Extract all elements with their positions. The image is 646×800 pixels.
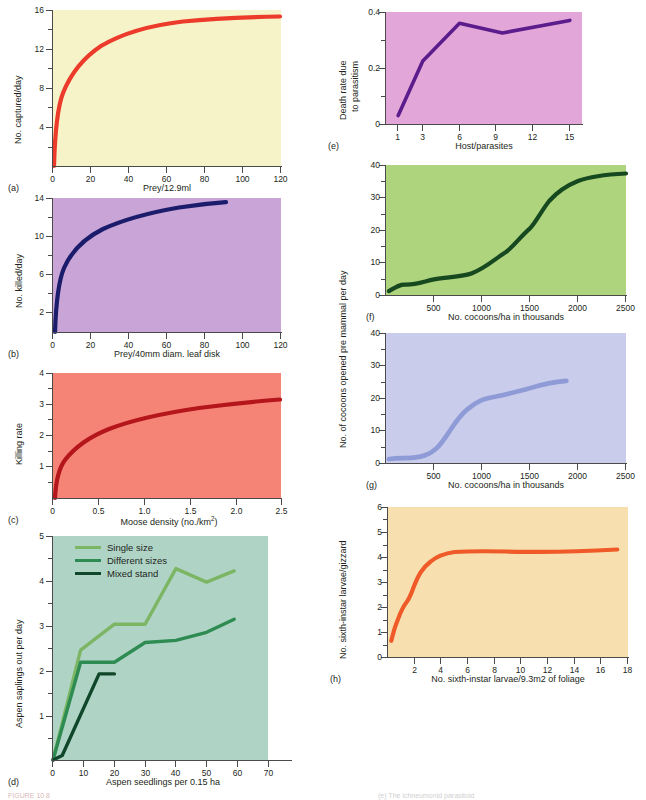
- panel-d-x-tick: [175, 761, 176, 767]
- panel-g-y-tick: [379, 333, 386, 334]
- panel-e-y-tick: [379, 68, 386, 69]
- panel-a-y-tick: [48, 29, 53, 30]
- panel-f-x-tick: [625, 296, 626, 302]
- panel-h-y-tick: [383, 519, 388, 520]
- panel-e-x-ticklabel: 1: [387, 132, 408, 142]
- panel-h-x-tick: [520, 658, 521, 664]
- panel-d-y-axis-label: Aspen saplings out per day: [14, 619, 24, 728]
- panel-f-letter: (f): [366, 312, 375, 322]
- panel-b-y-tick: [48, 217, 53, 218]
- panel-h-plot-area: [388, 507, 628, 657]
- panel-d-y-tick: [48, 603, 53, 604]
- panel-h-y-tick: [383, 595, 388, 596]
- panel-d-y-tick: [46, 626, 53, 627]
- panel-g-y-ticklabel: 0: [354, 458, 380, 468]
- panel-a-y-tick: [46, 88, 53, 89]
- panel-e-x-tick: [422, 125, 423, 131]
- panel-a-y-ticklabel: 4: [24, 122, 44, 132]
- panel-h-y-ticklabel: 3: [358, 577, 382, 587]
- panel-f-y-tick: [379, 197, 386, 198]
- panel-f-curve: [386, 165, 626, 295]
- panel-g-x-ticklabel: 2500: [611, 471, 640, 481]
- panel-h-y-axis-label: No. sixth-instar larvae/gizzard: [338, 540, 348, 659]
- panel-d-legend-item-single-size: Single size: [75, 541, 167, 554]
- panel-d-y-ticklabel: 2: [24, 666, 44, 676]
- legend-swatch-single-size: [75, 546, 101, 549]
- panel-h-x-tick: [440, 658, 441, 664]
- panel-b-x-tick: [90, 333, 91, 339]
- panel-b-y-ticklabel: 14: [24, 193, 44, 203]
- panel-e-x-tick: [569, 125, 570, 131]
- panel-g-plot-area: [386, 333, 626, 463]
- panel-a-x-tick: [204, 167, 205, 173]
- panel-e-x-tick: [495, 125, 496, 131]
- panel-f-x-axis: [385, 295, 627, 296]
- panel-h-x-tick: [574, 658, 575, 664]
- panel-f-y-tick: [379, 262, 386, 263]
- panel-h-y-tick: [381, 557, 388, 558]
- panel-g-x-tick: [433, 464, 434, 470]
- panel-a-y-tick: [48, 147, 53, 148]
- panel-h-x-tick: [547, 658, 548, 664]
- panel-h-y-tick: [381, 607, 388, 608]
- panel-d-x-axis: [52, 760, 292, 761]
- panel-g-x-tick: [577, 464, 578, 470]
- panel-c-y-ticklabel: 4: [24, 368, 44, 378]
- panel-g-y-tick: [381, 349, 386, 350]
- panel-b-y-tick: [46, 312, 53, 313]
- panel-d-legend-item-different-sizes: Different sizes: [75, 554, 167, 567]
- panel-a-y-tick: [46, 10, 53, 11]
- panel-e-y-tick: [381, 40, 386, 41]
- panel-e-y-axis-label-line1: Death rate due: [338, 60, 348, 120]
- panel-f-x-tick: [433, 296, 434, 302]
- panel-e-x-axis-label: Host/parasites: [434, 141, 534, 151]
- panel-f-y-ticklabel: 10: [354, 257, 380, 267]
- panel-c-y-tick: [46, 435, 53, 436]
- panel-b-y-axis-label: No. killed/day: [14, 254, 24, 308]
- panel-h-y-ticklabel: 0: [358, 652, 382, 662]
- panel-b-x-ticklabel: 120: [270, 340, 291, 350]
- panel-f-y-ticklabel: 30: [354, 192, 380, 202]
- panel-c-y-tick: [48, 388, 53, 389]
- panel-f-y-ticklabel: 20: [354, 225, 380, 235]
- panel-c-x-axis-label: Moose density (no./km2): [104, 515, 234, 527]
- panel-h-x-tick: [467, 658, 468, 664]
- legend-label-mixed-stand: Mixed stand: [107, 568, 158, 579]
- panel-b-x-tick: [280, 333, 281, 339]
- panel-f-y-ticklabel: 0: [354, 290, 380, 300]
- panel-d-y-tick: [48, 738, 53, 739]
- panel-c-y-axis-label: Killing rate: [14, 423, 24, 465]
- panel-c-x-tick: [144, 499, 145, 505]
- panel-c: 4 3 2 1 0 0.5 1.0 1.5 2.0 2.5 Moose dens…: [0, 365, 320, 530]
- panel-c-x-tick: [52, 499, 53, 505]
- panel-c-y-tick: [46, 404, 53, 405]
- panel-g-y-ticklabel: 30: [354, 360, 380, 370]
- panel-c-x-tick: [281, 499, 282, 505]
- panel-c-plot-area: [53, 373, 281, 498]
- panel-h-y-ticklabel: 6: [358, 502, 382, 512]
- panel-c-y-tick: [46, 466, 53, 467]
- panel-f-y-tick: [379, 230, 386, 231]
- panel-h-x-ticklabel: 18: [617, 665, 638, 675]
- panel-c-y-tick: [48, 451, 53, 452]
- panel-c-x-tick: [236, 499, 237, 505]
- panel-a-x-tick: [166, 167, 167, 173]
- panel-f-y-tick: [381, 246, 386, 247]
- panel-a-x-tick: [90, 167, 91, 173]
- panel-b-x-tick: [242, 333, 243, 339]
- panel-e-curve: [386, 12, 582, 124]
- panel-e-x-ticklabel: 3: [412, 132, 433, 142]
- figure-caption-left: FIGURE 10.8: [8, 792, 50, 799]
- panel-f: 40 30 20 10 0 500 1000 1500 2000 2500 No…: [326, 155, 646, 325]
- panel-b-x-tick: [204, 333, 205, 339]
- panel-d-legend-item-mixed-stand: Mixed stand: [75, 567, 167, 580]
- panel-g-x-tick: [625, 464, 626, 470]
- panel-a-x-tick: [52, 167, 53, 173]
- panel-g-y-tick: [381, 414, 386, 415]
- panel-e-plot-area: [386, 12, 582, 124]
- panel-h-x-tick: [494, 658, 495, 664]
- panel-a-y-tick: [46, 127, 53, 128]
- panel-h-y-tick: [381, 507, 388, 508]
- panel-d-plot-area: Single size Different sizes Mixed stand: [53, 536, 268, 760]
- panel-h-y-ticklabel: 1: [358, 627, 382, 637]
